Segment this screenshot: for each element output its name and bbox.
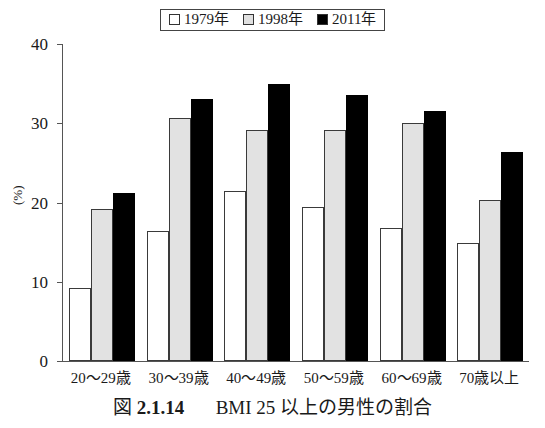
gray-square-icon [243,14,254,25]
x-label-60-69: 60〜69歳 [373,366,451,387]
legend-entry-2011: 2011年 [317,12,376,27]
bar-group-40-49 [218,44,296,361]
y-tick-0: 0 [57,361,63,362]
bar-1998-30-39 [169,118,191,361]
bar-1979-60-69 [380,228,402,361]
bar-1998-70-plus [479,200,501,361]
x-label-70-plus: 70歳以上 [450,366,528,387]
x-axis-labels: 20〜29歳 30〜39歳 40〜49歳 50〜59歳 60〜69歳 70歳以上 [62,366,528,387]
bar-2011-60-69 [424,111,446,361]
legend-label-2011: 2011年 [332,12,376,27]
figure-bmi-male-ratio: 1979年 1998年 2011年 (%) 0 10 20 30 40 [0,0,545,428]
x-label-40-49: 40〜49歳 [217,366,295,387]
plot-area: 0 10 20 30 40 [62,44,529,362]
bar-1979-30-39 [147,231,169,361]
bar-group-70-plus [451,44,529,361]
bar-2011-40-49 [268,84,290,361]
bar-2011-20-29 [113,193,135,361]
bar-group-50-59 [296,44,374,361]
bar-1979-20-29 [69,288,91,361]
white-square-icon [169,14,180,25]
bar-group-30-39 [141,44,219,361]
x-label-20-29: 20〜29歳 [62,366,140,387]
bar-2011-70-plus [501,152,523,361]
y-tick-label-40: 40 [31,35,48,55]
bar-2011-50-59 [346,95,368,361]
y-tick-label-10: 10 [31,273,48,293]
caption-figure-word: 図 [113,397,132,418]
bar-group-20-29 [63,44,141,361]
bar-1998-50-59 [324,130,346,361]
bar-1979-50-59 [302,207,324,361]
black-square-icon [317,14,328,25]
bar-1998-40-49 [246,130,268,361]
x-label-50-59: 50〜59歳 [295,366,373,387]
legend-entry-1998: 1998年 [243,12,303,27]
y-tick-label-30: 30 [31,114,48,134]
chart-legend: 1979年 1998年 2011年 [160,9,385,31]
figure-caption: 図 2.1.14 BMI 25 以上の男性の割合 [0,392,545,419]
bar-1979-70-plus [457,243,479,361]
y-tick-label-20: 20 [31,194,48,214]
y-tick-label-0: 0 [40,352,49,372]
bar-groups [63,44,529,361]
bar-1979-40-49 [224,191,246,361]
legend-entry-1979: 1979年 [169,12,229,27]
legend-label-1979: 1979年 [184,12,229,27]
bar-group-60-69 [374,44,452,361]
bar-1998-20-29 [91,209,113,361]
bar-2011-30-39 [191,99,213,361]
bar-1998-60-69 [402,123,424,361]
y-axis-title: (%) [10,186,26,206]
x-label-30-39: 30〜39歳 [140,366,218,387]
caption-text: BMI 25 以上の男性の割合 [216,397,432,418]
caption-number: 2.1.14 [137,397,185,418]
legend-label-1998: 1998年 [258,12,303,27]
